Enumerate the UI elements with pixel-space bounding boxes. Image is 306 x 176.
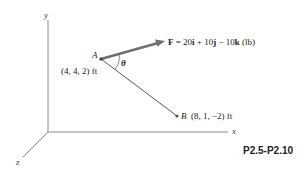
z-axis: [23, 132, 48, 157]
x-axis-label: x: [232, 127, 236, 136]
point-b-coords: (8, 1, −2) ft: [191, 112, 232, 121]
point-b-label: B: [181, 112, 187, 121]
force-k-coef: 10: [226, 37, 235, 47]
angle-theta-label: θ: [121, 59, 126, 68]
point-b-marker: [175, 114, 178, 117]
force-equation: F = 20i + 10j − 10k (lb): [168, 38, 255, 47]
force-plus: +: [195, 37, 205, 47]
force-minus: −: [216, 37, 226, 47]
point-a-label: A: [92, 51, 98, 60]
force-arrow-shaft: [101, 43, 158, 59]
point-a-coords: (4, 4, 2) ft: [61, 67, 97, 76]
force-j-coef: 10: [204, 37, 213, 47]
point-a-marker: [99, 57, 102, 60]
line-ab: [101, 59, 177, 116]
force-unit: (lb): [240, 37, 255, 47]
z-axis-label: z: [16, 158, 20, 167]
figure-id: P2.5-P2.10: [243, 145, 293, 156]
force-i-coef: 20: [183, 37, 192, 47]
y-axis-label: y: [44, 11, 48, 20]
angle-arc: [115, 54, 119, 69]
force-equals: =: [174, 37, 184, 47]
force-arrowhead: [155, 40, 165, 47]
